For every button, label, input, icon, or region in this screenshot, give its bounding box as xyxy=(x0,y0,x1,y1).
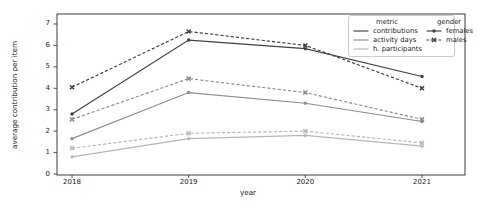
line-swatch-icon xyxy=(352,27,370,35)
point-marker xyxy=(432,30,435,33)
x-tick-label-2020: 2020 xyxy=(290,178,320,186)
legend-item-males: males xyxy=(425,36,473,45)
point-marker xyxy=(187,38,190,41)
legend-column-gender: genderfemalesmales xyxy=(425,18,473,53)
point-marker xyxy=(187,91,190,94)
y-tick-label-4: 4 xyxy=(34,84,50,92)
legend-item-contributions: contributions xyxy=(352,27,422,36)
line-swatch-icon xyxy=(352,36,370,44)
series-line xyxy=(72,131,422,148)
series-line xyxy=(72,93,422,139)
legend-title-gender: gender xyxy=(425,18,473,27)
y-tick-label-3: 3 xyxy=(34,105,50,113)
point-marker xyxy=(304,102,307,105)
legend-item-h-participants: h. participants xyxy=(352,45,422,54)
y-tick-label-1: 1 xyxy=(34,148,50,156)
y-tick-label-5: 5 xyxy=(34,62,50,70)
legend-item-activity-days: activity days xyxy=(352,36,422,45)
y-axis-label: average contribution per item xyxy=(10,41,19,149)
point-marker xyxy=(304,134,307,137)
legend: metriccontributionsactivity daysh. parti… xyxy=(348,15,455,57)
line-swatch-icon xyxy=(352,45,370,53)
y-tick-label-6: 6 xyxy=(34,41,50,49)
legend-label: activity days xyxy=(373,36,416,44)
x-axis-label: year xyxy=(240,188,256,197)
series-activity-days-males xyxy=(70,77,424,122)
legend-item-females: females xyxy=(425,27,473,36)
x-marker-swatch-icon xyxy=(425,36,443,44)
x-tick-label-2018: 2018 xyxy=(57,178,87,186)
y-tick-label-2: 2 xyxy=(34,127,50,135)
legend-label: females xyxy=(446,27,473,35)
point-marker xyxy=(70,155,73,158)
series-h-participants-males xyxy=(70,129,424,150)
legend-label: h. participants xyxy=(373,45,422,53)
legend-title-metric: metric xyxy=(352,18,422,27)
y-tick-label-0: 0 xyxy=(34,170,50,178)
legend-label: males xyxy=(446,36,466,44)
circle-marker-swatch-icon xyxy=(425,27,443,35)
x-tick-label-2021: 2021 xyxy=(407,178,437,186)
legend-column-metric: metriccontributionsactivity daysh. parti… xyxy=(352,18,422,53)
series-line xyxy=(72,135,422,156)
point-marker xyxy=(70,112,73,115)
series-activity-days-females xyxy=(70,91,423,140)
point-marker xyxy=(70,137,73,140)
x-tick-label-2019: 2019 xyxy=(174,178,204,186)
y-tick-label-7: 7 xyxy=(34,19,50,27)
series-h-participants-females xyxy=(70,134,423,159)
point-marker xyxy=(70,85,74,89)
legend-label: contributions xyxy=(373,27,418,35)
figure: average contribution per item year 20182… xyxy=(0,0,478,205)
point-marker xyxy=(187,137,190,140)
point-marker xyxy=(420,75,423,78)
